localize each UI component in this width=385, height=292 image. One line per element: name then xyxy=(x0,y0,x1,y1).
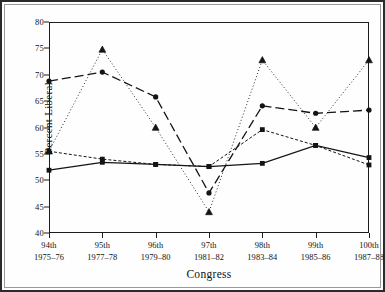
data-point xyxy=(366,107,371,112)
x-tick-label: 100th1987–88 xyxy=(354,240,384,263)
y-tick-mark xyxy=(44,22,49,23)
data-point xyxy=(47,168,52,173)
x-axis-title: Congress xyxy=(49,268,369,280)
data-point xyxy=(46,78,51,83)
y-tick-mark xyxy=(44,74,49,75)
y-tick-mark xyxy=(44,101,49,102)
series-line xyxy=(49,49,369,211)
series-series-dotted-triangle xyxy=(46,46,373,215)
data-point xyxy=(99,46,106,52)
x-tick-label-congress: 96th xyxy=(141,240,171,252)
x-tick-label-years: 1983–84 xyxy=(247,252,277,264)
series-line xyxy=(49,72,369,193)
x-tick-mark xyxy=(369,233,370,238)
x-tick-mark xyxy=(49,233,50,238)
y-tick-label: 60 xyxy=(22,123,44,133)
x-tick-label: 97th1981–82 xyxy=(194,240,224,263)
data-point xyxy=(207,164,212,169)
x-tick-mark xyxy=(156,233,157,238)
data-point xyxy=(260,161,265,166)
y-tick-label: 50 xyxy=(22,175,44,185)
data-point xyxy=(260,127,265,132)
data-point xyxy=(206,209,213,215)
data-point xyxy=(100,157,105,162)
x-tick-label-years: 1985–86 xyxy=(301,252,331,264)
data-point xyxy=(367,155,372,160)
x-tick-label-years: 1979–80 xyxy=(141,252,171,264)
x-tick-label-congress: 99th xyxy=(301,240,331,252)
y-tick-label: 75 xyxy=(22,43,44,53)
y-tick-label: 65 xyxy=(22,96,44,106)
series-series-longdash-circle xyxy=(46,70,371,196)
y-tick-label: 40 xyxy=(22,228,44,238)
data-point xyxy=(260,103,265,108)
x-tick-mark xyxy=(102,233,103,238)
y-tick-mark xyxy=(44,206,49,207)
data-point xyxy=(206,190,211,195)
y-tick-mark xyxy=(44,127,49,128)
y-tick-label: 55 xyxy=(22,149,44,159)
data-point xyxy=(100,70,105,75)
x-tick-label-congress: 94th xyxy=(34,240,64,252)
x-tick-label-years: 1981–82 xyxy=(194,252,224,264)
data-point xyxy=(153,162,158,167)
data-point xyxy=(312,124,319,130)
y-tick-label: 80 xyxy=(22,17,44,27)
data-point xyxy=(367,163,372,168)
x-tick-label: 99th1985–86 xyxy=(301,240,331,263)
y-tick-mark xyxy=(44,48,49,49)
chart-figure: Percent Liberal 404550556065707580 94th1… xyxy=(0,0,385,292)
x-tick-label: 95th1977–78 xyxy=(87,240,117,263)
x-tick-label-congress: 95th xyxy=(87,240,117,252)
x-tick-label-congress: 100th xyxy=(354,240,384,252)
x-tick-label: 94th1975–76 xyxy=(34,240,64,263)
series-canvas xyxy=(49,22,369,233)
x-tick-label: 96th1979–80 xyxy=(141,240,171,263)
series-series-shortdash-square xyxy=(47,127,372,169)
x-tick-mark xyxy=(209,233,210,238)
data-point xyxy=(259,57,266,63)
y-tick-mark xyxy=(44,153,49,154)
data-point xyxy=(152,124,159,130)
x-tick-mark xyxy=(316,233,317,238)
data-point xyxy=(153,94,158,99)
x-tick-label-years: 1977–78 xyxy=(87,252,117,264)
data-point xyxy=(313,143,318,148)
series-line xyxy=(49,130,369,167)
x-tick-label-years: 1975–76 xyxy=(34,252,64,264)
plot-area: 404550556065707580 94th1975–7695th1977–7… xyxy=(49,22,369,233)
y-tick-mark xyxy=(44,180,49,181)
y-tick-label: 45 xyxy=(22,202,44,212)
x-tick-label-years: 1987–88 xyxy=(354,252,384,264)
y-axis-title-wrap: Percent Liberal xyxy=(8,2,24,233)
x-tick-mark xyxy=(262,233,263,238)
x-tick-label-congress: 98th xyxy=(247,240,277,252)
y-tick-label: 70 xyxy=(22,70,44,80)
x-tick-label-congress: 97th xyxy=(194,240,224,252)
data-point xyxy=(366,57,373,63)
data-point xyxy=(313,111,318,116)
x-tick-label: 98th1983–84 xyxy=(247,240,277,263)
